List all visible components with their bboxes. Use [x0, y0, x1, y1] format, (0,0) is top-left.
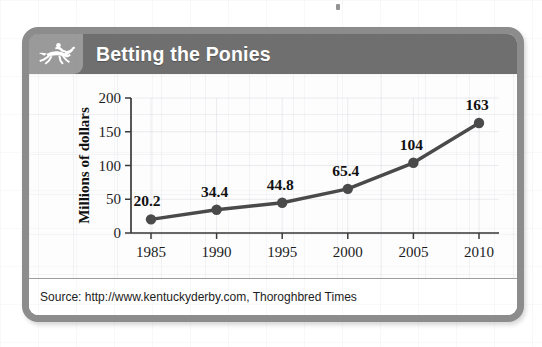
card-header: Betting the Ponies	[29, 34, 517, 74]
chart-card: Betting the Ponies 050100150200198519901…	[22, 27, 524, 322]
x-axis-tick-label: 1985	[136, 244, 166, 260]
horse-jockey-icon	[29, 34, 83, 74]
scan-artifact	[336, 4, 340, 10]
data-point-label: 44.8	[267, 176, 294, 193]
data-point-label: 104	[400, 136, 424, 153]
data-point-marker	[408, 158, 418, 168]
data-point-label: 65.4	[332, 162, 359, 179]
source-bar: Source: http://www.kentuckyderby.com, Th…	[29, 278, 517, 315]
y-axis-tick-label: 200	[99, 90, 122, 106]
page-root: Betting the Ponies 050100150200198519901…	[0, 0, 542, 347]
y-axis-tick-label: 0	[114, 225, 122, 241]
data-point-label: 20.2	[133, 192, 160, 209]
data-point-marker	[211, 205, 221, 215]
source-text: Source: http://www.kentuckyderby.com, Th…	[40, 290, 357, 304]
x-axis-tick-label: 2000	[333, 244, 363, 260]
line-chart: 050100150200198519901995200020052010Mill…	[29, 74, 517, 278]
data-point-marker	[277, 198, 287, 208]
x-axis-tick-label: 2005	[398, 244, 428, 260]
data-point-marker	[474, 118, 484, 128]
page-title: Betting the Ponies	[83, 34, 487, 74]
x-axis-tick-label: 1995	[267, 244, 297, 260]
data-series-line	[151, 123, 479, 219]
x-axis-tick-label: 2010	[464, 244, 494, 260]
data-point-label: 163	[465, 96, 489, 113]
y-axis-tick-label: 150	[99, 124, 122, 140]
y-axis-tick-label: 100	[99, 158, 122, 174]
y-axis-tick-label: 50	[106, 191, 121, 207]
x-axis-tick-label: 1990	[202, 244, 232, 260]
chart-plot-area: 050100150200198519901995200020052010Mill…	[29, 74, 517, 278]
y-axis-title: Millions of dollars	[76, 107, 92, 224]
data-point-marker	[343, 184, 353, 194]
data-point-marker	[146, 214, 156, 224]
data-point-label: 34.4	[201, 183, 228, 200]
